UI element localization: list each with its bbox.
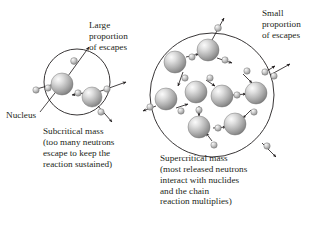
neutron-6 [207, 75, 213, 81]
nucleus-1 [82, 87, 102, 107]
nucleus-5 [245, 82, 267, 104]
neutron-4 [98, 109, 104, 115]
nucleus-7 [224, 113, 246, 135]
neutron-5 [33, 87, 39, 93]
subcritical-neutron-arrows [33, 47, 126, 122]
nucleus-0 [51, 73, 73, 95]
neutron-0 [71, 58, 78, 65]
label-large-proportion-of-escapes: Large proportion of escapes [89, 20, 128, 53]
neutron-arrow-4 [243, 74, 252, 83]
neutron-13 [251, 109, 257, 115]
neutron-11 [196, 107, 202, 113]
neutron-1 [45, 85, 51, 91]
neutron-9 [234, 92, 240, 98]
nucleus-0 [197, 39, 219, 61]
subcritical-mass-diagram [33, 47, 126, 122]
label-nucleus: Nucleus [6, 110, 36, 121]
neutron-arrow-3 [98, 82, 126, 92]
supercritical-nuclei [155, 39, 267, 138]
neutron-1 [189, 54, 195, 60]
neutron-8 [147, 104, 153, 110]
neutron-3 [104, 86, 110, 92]
neutron-3 [222, 57, 228, 63]
nucleus-6 [188, 116, 210, 138]
figure-canvas: Large proportion of escapes Small propor… [0, 0, 324, 225]
neutron-14 [264, 143, 270, 149]
caption-supercritical-mass: Supercritical mass (most released neutro… [160, 153, 247, 207]
nucleus-2 [155, 88, 177, 110]
neutron-0 [215, 25, 222, 32]
neutron-arrow-13 [243, 110, 251, 118]
nucleus-1 [164, 51, 186, 73]
nucleus-4 [211, 85, 233, 107]
neutron-4 [244, 68, 250, 74]
neutron-15 [211, 142, 217, 148]
neutron-12 [215, 125, 221, 131]
neutron-10 [271, 73, 277, 79]
neutron-7 [178, 108, 184, 114]
caption-subcritical-mass: Subcritical mass (too many neutrons esca… [43, 126, 114, 169]
neutron-2 [182, 75, 188, 81]
neutron-arrow-7 [176, 104, 188, 108]
neutron-2 [75, 90, 81, 96]
label-small-proportion-of-escapes: Small proportion of escapes [262, 8, 301, 41]
nucleus-3 [185, 81, 207, 103]
neutron-5 [262, 69, 268, 75]
